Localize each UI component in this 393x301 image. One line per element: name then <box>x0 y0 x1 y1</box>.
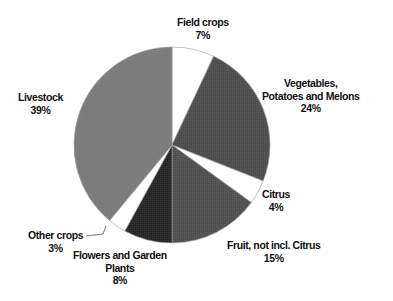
label-field-crops: Field crops 7% <box>177 16 229 41</box>
label-fruit: Fruit, not incl. Citrus 15% <box>227 239 320 264</box>
label-vegetables: Vegetables, Potatoes and Melons 24% <box>262 77 359 115</box>
pie-chart <box>0 0 393 301</box>
other-crops-leader-line <box>86 226 106 236</box>
label-citrus: Citrus 4% <box>262 188 290 213</box>
label-other-crops: Other crops 3% <box>28 229 83 254</box>
label-livestock: Livestock 39% <box>18 91 63 116</box>
label-flowers: Flowers and Garden Plants 8% <box>73 249 167 287</box>
